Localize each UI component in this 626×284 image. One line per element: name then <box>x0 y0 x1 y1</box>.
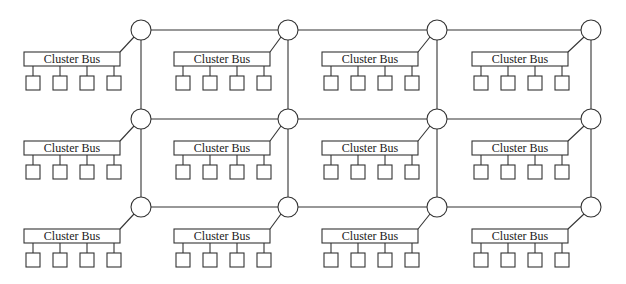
processor-box <box>378 165 392 179</box>
processor-box <box>230 76 244 90</box>
cluster-bus-label: Cluster Bus <box>44 52 101 66</box>
cluster-bus-label: Cluster Bus <box>492 229 549 243</box>
cluster-bus-label: Cluster Bus <box>194 141 251 155</box>
bus-to-node-link <box>568 37 584 52</box>
processor-box <box>80 76 94 90</box>
processor-box <box>176 76 190 90</box>
cluster-bus-label: Cluster Bus <box>342 141 399 155</box>
processor-box <box>324 253 338 267</box>
router-node-circle <box>278 109 298 129</box>
cluster-bus-label: Cluster Bus <box>194 52 251 66</box>
bus-to-node-link <box>270 126 281 141</box>
processor-box <box>107 253 121 267</box>
processor-box <box>378 253 392 267</box>
processor-box <box>351 253 365 267</box>
processor-box <box>501 76 515 90</box>
cluster-bus-label: Cluster Bus <box>342 229 399 243</box>
cluster: Cluster Bus <box>472 214 584 267</box>
processor-box <box>474 76 488 90</box>
processor-box <box>230 253 244 267</box>
cluster: Cluster Bus <box>322 214 430 267</box>
processor-box <box>555 76 569 90</box>
processor-box <box>53 253 67 267</box>
processor-box <box>80 253 94 267</box>
processor-box <box>257 253 271 267</box>
processor-box <box>53 165 67 179</box>
router-node-circle <box>581 109 601 129</box>
processor-box <box>555 253 569 267</box>
bus-to-node-link <box>418 214 430 229</box>
processor-box <box>528 253 542 267</box>
processor-box <box>405 165 419 179</box>
bus-to-node-link <box>120 37 134 52</box>
processor-box <box>378 76 392 90</box>
cluster: Cluster Bus <box>24 126 134 179</box>
cluster-bus-label: Cluster Bus <box>194 229 251 243</box>
processor-box <box>501 253 515 267</box>
bus-to-node-link <box>568 126 584 141</box>
processor-box <box>501 165 515 179</box>
processor-box <box>555 165 569 179</box>
processor-box <box>257 76 271 90</box>
router-node-circle <box>427 20 447 40</box>
bus-to-node-link <box>120 126 134 141</box>
cluster-bus-label: Cluster Bus <box>342 52 399 66</box>
cluster: Cluster Bus <box>174 126 281 179</box>
router-node-circle <box>278 20 298 40</box>
processor-box <box>26 165 40 179</box>
processor-box <box>176 165 190 179</box>
processor-box <box>80 165 94 179</box>
bus-to-node-link <box>418 37 430 52</box>
cluster: Cluster Bus <box>322 126 430 179</box>
processor-box <box>203 253 217 267</box>
cluster-mesh-diagram: Cluster BusCluster BusCluster BusCluster… <box>0 0 626 284</box>
processor-box <box>107 165 121 179</box>
router-node-circle <box>427 197 447 217</box>
bus-to-node-link <box>270 37 281 52</box>
processor-box <box>230 165 244 179</box>
bus-to-node-link <box>120 214 134 229</box>
processor-box <box>26 253 40 267</box>
processor-box <box>474 253 488 267</box>
router-node-circle <box>131 197 151 217</box>
processor-box <box>528 165 542 179</box>
processor-box <box>324 165 338 179</box>
processor-box <box>257 165 271 179</box>
cluster-bus-label: Cluster Bus <box>44 229 101 243</box>
processor-box <box>176 253 190 267</box>
router-node-circle <box>427 109 447 129</box>
processor-box <box>405 76 419 90</box>
cluster: Cluster Bus <box>24 37 134 90</box>
router-node-circle <box>581 20 601 40</box>
cluster: Cluster Bus <box>322 37 430 90</box>
processor-box <box>351 76 365 90</box>
bus-to-node-link <box>270 214 281 229</box>
processor-box <box>351 165 365 179</box>
processor-box <box>26 76 40 90</box>
cluster: Cluster Bus <box>174 214 281 267</box>
cluster: Cluster Bus <box>24 214 134 267</box>
bus-to-node-link <box>418 126 430 141</box>
clusters: Cluster BusCluster BusCluster BusCluster… <box>24 37 584 267</box>
processor-box <box>405 253 419 267</box>
router-node-circle <box>131 20 151 40</box>
processor-box <box>528 76 542 90</box>
processor-box <box>107 76 121 90</box>
cluster-bus-label: Cluster Bus <box>492 52 549 66</box>
cluster-bus-label: Cluster Bus <box>44 141 101 155</box>
processor-box <box>53 76 67 90</box>
processor-box <box>203 165 217 179</box>
processor-box <box>474 165 488 179</box>
processor-box <box>203 76 217 90</box>
cluster: Cluster Bus <box>472 126 584 179</box>
router-node-circle <box>278 197 298 217</box>
router-node-circle <box>581 197 601 217</box>
cluster: Cluster Bus <box>174 37 281 90</box>
bus-to-node-link <box>568 214 584 229</box>
cluster-bus-label: Cluster Bus <box>492 141 549 155</box>
router-node-circle <box>131 109 151 129</box>
cluster: Cluster Bus <box>472 37 584 90</box>
processor-box <box>324 76 338 90</box>
